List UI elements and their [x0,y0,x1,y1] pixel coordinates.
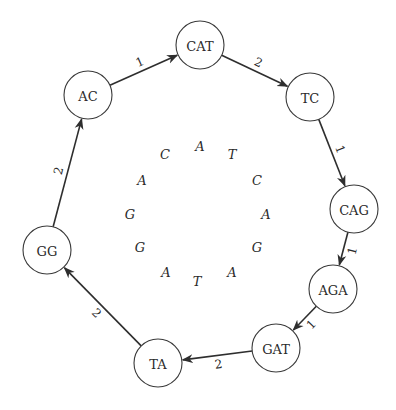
node-label: CAT [186,39,214,54]
node-aga: AGA [309,265,357,313]
node-ta: TA [134,339,182,387]
ring-letter: G [252,240,262,255]
node-label: AGA [317,283,348,298]
nodes-layer: CATTCCAGAGAGATTAGGAC [23,21,378,387]
ring-letter: C [160,147,170,162]
edge-weight-label: 2 [51,165,66,176]
ring-letter: G [125,207,135,222]
edge-weight-label: 1 [304,317,319,332]
edge-weight-label: 2 [214,357,223,372]
node-gat: GAT [252,324,300,372]
ring-letter: A [194,139,204,154]
node-label: GAT [262,342,290,357]
cycle-graph: 12111222 CATTCCAGAGAGATTAGGAC ATCAGATAGG… [0,0,396,410]
edge-aga-to-gat: 1 [293,306,319,332]
ring-letter: A [260,207,270,222]
ring-letter: G [135,240,145,255]
ring-letter: C [252,173,262,188]
edge-gat-to-ta: 2 [183,351,252,372]
edge-cag-to-aga: 1 [339,232,360,265]
edge-weight-label: 1 [332,143,348,155]
diagram-canvas: 12111222 CATTCCAGAGAGATTAGGAC ATCAGATAGG… [0,0,396,410]
ring-letter: T [193,274,203,289]
edge-arrow [65,268,142,346]
node-label: CAG [339,203,369,218]
edge-cat-to-tc: 2 [222,55,288,87]
edge-weight-label: 2 [252,55,265,71]
edge-weight-label: 2 [89,306,104,321]
edge-ta-to-gg: 2 [65,268,142,346]
edge-gg-to-ac: 2 [51,119,82,227]
node-label: AC [77,89,97,104]
edge-weight-label: 1 [345,245,360,256]
node-label: GG [37,244,58,259]
edge-tc-to-cag: 1 [319,119,348,185]
node-ac: AC [64,71,112,119]
node-cag: CAG [330,185,378,233]
ring-letter: A [226,265,236,280]
ring-letter: T [228,147,238,162]
node-label: TC [301,91,320,106]
edge-arrow [110,55,177,85]
node-gg: GG [23,226,71,274]
node-label: TA [149,357,167,372]
node-tc: TC [286,73,334,121]
edge-ac-to-cat: 1 [110,54,177,85]
ring-letter: A [136,173,146,188]
edge-weight-label: 1 [134,54,147,70]
node-cat: CAT [176,21,224,69]
ring-letter: A [160,265,170,280]
inner-ring-letters: ATCAGATAGGAC [125,139,271,289]
